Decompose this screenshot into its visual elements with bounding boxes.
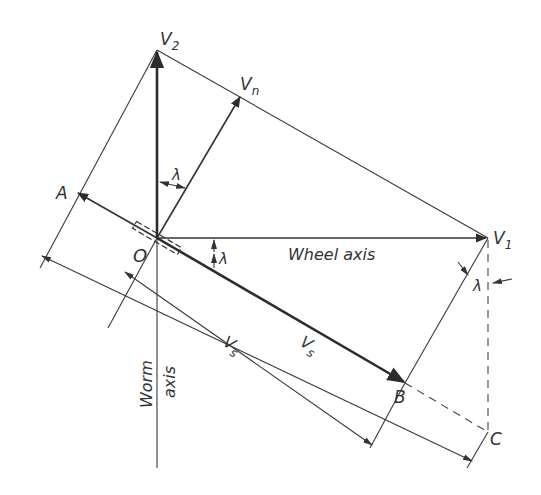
label-c: C — [490, 429, 502, 449]
lambda-right-right-arrow — [493, 279, 512, 283]
label-a: A — [55, 183, 68, 203]
label-o: O — [133, 245, 147, 266]
v2-v1-line — [157, 50, 488, 238]
velocity-diagram: V2 Vn V1 A O B C λ λ λ Wheel axis Worm a… — [0, 0, 541, 495]
label-wheel-axis: Wheel axis — [288, 245, 375, 264]
label-vs-outer: Vs — [218, 332, 244, 361]
label-vs-inner: Vs — [295, 332, 321, 361]
vs-outer-dimension — [42, 256, 472, 461]
vs-inner-dimension — [125, 272, 372, 445]
label-worm: Worm — [137, 360, 156, 408]
label-vn: Vn — [240, 74, 259, 98]
a-vector — [78, 193, 157, 238]
label-lambda-top: λ — [171, 166, 181, 184]
c-extension-line — [467, 432, 488, 468]
label-lambda-mid: λ — [218, 250, 228, 268]
b-c-dashed-line — [405, 383, 488, 432]
v1-b-line — [405, 238, 488, 383]
vn-vector — [157, 97, 240, 238]
label-v2: V2 — [160, 29, 179, 53]
diagram-canvas: V2 Vn V1 A O B C λ λ λ Wheel axis Worm a… — [0, 0, 541, 495]
label-v1: V1 — [493, 228, 512, 252]
lambda-right-left-arrow — [458, 262, 468, 275]
label-b: B — [394, 387, 406, 407]
v2-extension-line — [40, 50, 157, 268]
label-axis: axis — [160, 366, 179, 398]
label-lambda-right: λ — [472, 277, 482, 295]
